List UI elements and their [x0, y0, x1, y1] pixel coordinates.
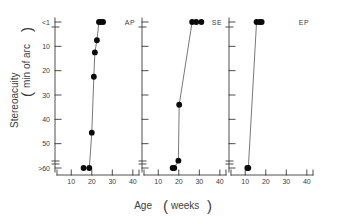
chart-canvas: <11020304050>6010203040AP10203040SE10203… — [0, 0, 343, 221]
y-tick-label: 30 — [42, 92, 50, 99]
y-axis-title: Stereoacuity ( min of arc ) — [9, 27, 35, 128]
data-point — [193, 19, 199, 25]
y-tick-label: >60 — [38, 165, 50, 172]
data-point — [175, 158, 181, 164]
series-line-ep — [247, 22, 261, 168]
x-tick-label: 40 — [303, 178, 311, 185]
x-tick-label: 10 — [241, 178, 249, 185]
data-point — [171, 165, 177, 171]
y-axis-title-unit: min of arc — [21, 44, 32, 88]
data-point — [92, 50, 98, 56]
x-axis-title: Age ( weeks ) — [134, 197, 212, 214]
x-tick-label: 30 — [108, 178, 116, 185]
y-tick-label: 10 — [42, 43, 50, 50]
data-point — [86, 165, 92, 171]
y-tick-label: 40 — [42, 116, 50, 123]
data-point — [81, 165, 87, 171]
data-point — [94, 37, 100, 43]
x-tick-label: 40 — [216, 178, 224, 185]
data-point — [245, 165, 251, 171]
y-tick-label: 20 — [42, 67, 50, 74]
x-tick-label: 40 — [129, 178, 137, 185]
x-axis-title-main: Age — [134, 200, 152, 211]
series-line-ap — [84, 22, 104, 168]
panel-ap: <11020304050>6010203040AP — [38, 18, 139, 185]
panel-label-ap: AP — [125, 19, 135, 26]
data-point — [91, 74, 97, 80]
data-point — [89, 130, 95, 136]
panel-ep: 10203040EP — [226, 18, 313, 185]
x-tick-label: 20 — [175, 178, 183, 185]
y-axis-title-main: Stereoacuity — [9, 72, 20, 128]
y-tick-label: <1 — [42, 19, 50, 26]
x-tick-label: 20 — [262, 178, 270, 185]
panel-label-ep: EP — [299, 19, 309, 26]
series-line-se — [173, 22, 202, 168]
x-tick-label: 10 — [154, 178, 162, 185]
panel-label-se: SE — [212, 19, 222, 26]
x-tick-label: 10 — [67, 178, 75, 185]
chart-render-root: <11020304050>6010203040AP10203040SE10203… — [38, 18, 313, 185]
panel-se: 10203040SE — [139, 18, 226, 185]
x-axis-title-unit: weeks — [170, 200, 199, 211]
y-axis-title-paren-close: ) — [18, 27, 35, 32]
data-point — [100, 19, 106, 25]
data-point — [176, 102, 182, 108]
data-point — [198, 19, 204, 25]
x-tick-label: 30 — [195, 178, 203, 185]
x-axis-title-paren-close: ) — [207, 197, 212, 214]
y-tick-label: 50 — [42, 140, 50, 147]
data-point — [259, 19, 265, 25]
y-axis-title-paren-open: ( — [18, 92, 35, 97]
x-axis-title-paren-open: ( — [163, 197, 168, 214]
x-tick-label: 30 — [282, 178, 290, 185]
x-tick-label: 20 — [88, 178, 96, 185]
stereoacuity-figure: <11020304050>6010203040AP10203040SE10203… — [0, 0, 343, 221]
